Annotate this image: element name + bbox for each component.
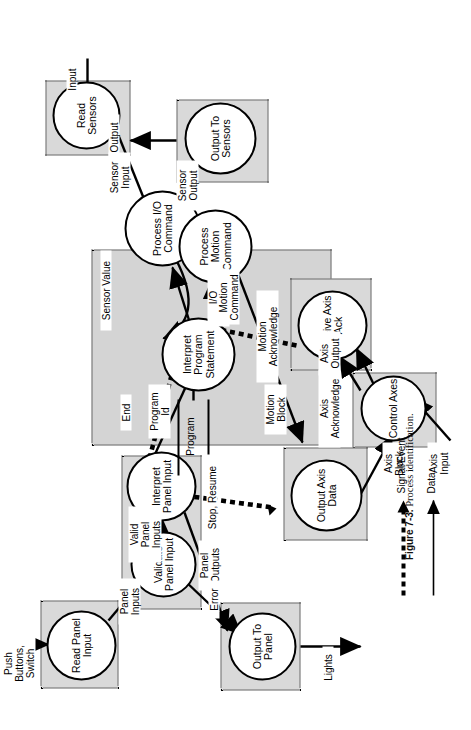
- figure-caption: Figure 7-3. Process identification.: [404, 413, 415, 560]
- flow-label-output: Output: [108, 114, 119, 160]
- terminator-program: Program: [177, 399, 209, 475]
- flow-label-motion-acknowledge: Motion Acknowledge: [256, 290, 278, 382]
- flow-label-panel-inputs: Panel Inputs: [118, 578, 140, 624]
- flow-label-sensor-output: Sensor Output: [176, 160, 198, 210]
- flow-label-motion-command: Motion Command: [217, 270, 239, 324]
- process-control-axes[interactable]: Control Axes: [360, 375, 426, 441]
- process-output-to-panel[interactable]: Output To Panel: [228, 612, 296, 680]
- process-interpret-program-statement[interactable]: Interpret Program Statement: [161, 317, 235, 391]
- flow-label-sensor-value: Sensor Value: [100, 250, 111, 330]
- flow-label-motion-block: Motion Block: [264, 384, 286, 434]
- legend-data-label: Data: [425, 448, 436, 494]
- terminator-program-label: Program: [184, 397, 195, 475]
- flow-label-error: Error: [208, 580, 219, 618]
- flow-label-valid-panel-inputs: Valid Panel Inputs: [128, 506, 161, 562]
- flow-label-stop-resume: Stop, Resume: [206, 454, 217, 540]
- flow-label-axis-acknowledge: Axis Acknowledge: [318, 369, 340, 447]
- flow-label-program-id: Program Id: [148, 384, 170, 438]
- figure-caption-text: Process identification.: [404, 413, 415, 506]
- flow-label-end: End: [120, 394, 131, 430]
- flow-label-lights: Lights: [322, 646, 333, 688]
- flow-label-axis-output: Axis Output: [318, 331, 340, 375]
- flow-label-input: Input: [66, 58, 77, 100]
- process-read-panel-input[interactable]: Read Panel Input: [46, 610, 116, 680]
- diagram-stage: Read Sensors Output To Sensors Process I…: [0, 0, 471, 730]
- figure-page: Read Sensors Output To Sensors Process I…: [0, 0, 471, 730]
- flow-label-push-buttons-switch: Push Buttons, Switch: [2, 632, 35, 694]
- process-output-axis-data[interactable]: Output Axis Data: [290, 459, 362, 531]
- figure-number: Figure 7-3.: [404, 509, 415, 560]
